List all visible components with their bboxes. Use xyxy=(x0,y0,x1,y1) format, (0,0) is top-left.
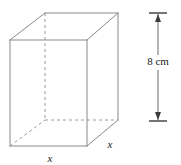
dimension-arrowhead-bottom xyxy=(155,112,161,120)
bottom-right-edge-label: x xyxy=(107,138,113,150)
hidden-edges-group xyxy=(10,13,118,146)
geometry-figure: 8 cm x x xyxy=(0,0,181,165)
bottom-front-edge-label: x xyxy=(47,152,53,164)
prism-diagram-canvas: 8 cm x x xyxy=(0,0,181,165)
bottom-left-receding-edge xyxy=(10,120,45,146)
height-dimension-group: 8 cm xyxy=(147,13,169,121)
bottom-right-receding-edge xyxy=(87,120,118,146)
edge-labels-group: x x xyxy=(47,138,113,164)
dimension-arrowhead-top xyxy=(155,14,161,22)
top-right-receding-edge xyxy=(87,13,118,40)
height-dimension-label: 8 cm xyxy=(147,55,169,67)
solid-edges-group xyxy=(10,13,118,146)
top-left-receding-edge xyxy=(10,13,45,40)
